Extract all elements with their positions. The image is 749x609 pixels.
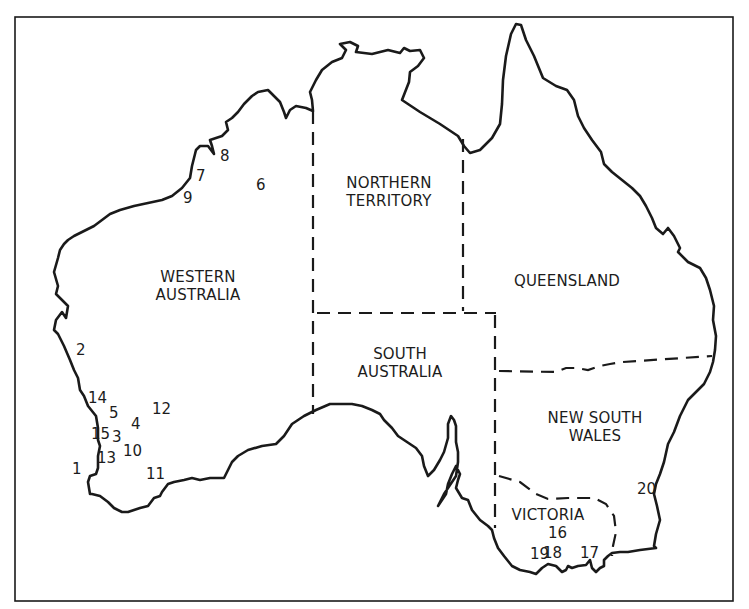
site-marker-14: 14 — [88, 389, 107, 407]
state-label-queensland: QUEENSLAND — [495, 272, 639, 290]
site-marker-16: 16 — [548, 524, 567, 542]
australia-map: WESTERN AUSTRALIA NORTHERN TERRITORY QUE… — [0, 0, 749, 609]
site-marker-11: 11 — [146, 465, 165, 483]
site-marker-5: 5 — [109, 404, 119, 422]
state-label-line: AUSTRALIA — [146, 286, 250, 304]
site-marker-2: 2 — [76, 341, 86, 359]
state-label-line: NORTHERN — [330, 174, 448, 192]
state-label-victoria: VICTORIA — [500, 506, 596, 524]
site-marker-12: 12 — [152, 400, 171, 418]
state-label-western-australia: WESTERN AUSTRALIA — [146, 268, 250, 304]
state-label-line: WALES — [530, 427, 660, 445]
state-label-line: SOUTH — [344, 345, 456, 363]
site-marker-6: 6 — [256, 176, 266, 194]
state-label-line: TERRITORY — [330, 192, 448, 210]
site-marker-1: 1 — [72, 460, 82, 478]
site-marker-9: 9 — [183, 189, 193, 207]
state-label-new-south-wales: NEW SOUTH WALES — [530, 409, 660, 445]
state-label-line: AUSTRALIA — [344, 363, 456, 381]
site-marker-7: 7 — [196, 167, 206, 185]
map-drawing — [0, 0, 749, 609]
site-marker-20: 20 — [637, 480, 656, 498]
site-marker-17: 17 — [580, 544, 599, 562]
state-label-line: QUEENSLAND — [495, 272, 639, 290]
state-label-line: WESTERN — [146, 268, 250, 286]
border-qld-nsw — [499, 356, 712, 372]
map-border — [15, 17, 733, 601]
state-label-line: NEW SOUTH — [530, 409, 660, 427]
site-marker-19: 19 — [530, 545, 549, 563]
site-marker-3: 3 — [112, 428, 122, 446]
site-marker-13: 13 — [97, 449, 116, 467]
state-label-south-australia: SOUTH AUSTRALIA — [344, 345, 456, 381]
site-marker-10: 10 — [123, 442, 142, 460]
state-label-northern-territory: NORTHERN TERRITORY — [330, 174, 448, 210]
state-label-line: VICTORIA — [500, 506, 596, 524]
site-marker-8: 8 — [220, 147, 230, 165]
site-marker-15: 15 — [91, 425, 110, 443]
site-marker-4: 4 — [131, 415, 141, 433]
